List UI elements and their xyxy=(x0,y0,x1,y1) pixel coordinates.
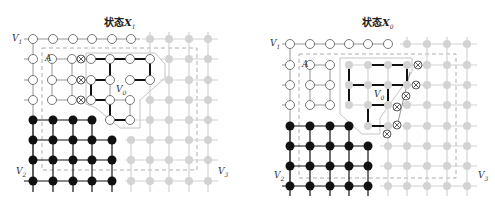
right-panel-grid xyxy=(282,37,477,196)
label-a: A xyxy=(45,53,52,63)
label-text: A xyxy=(302,59,309,69)
label-sub: 3 xyxy=(225,171,229,178)
label-sub: 1 xyxy=(19,38,23,45)
label-sub: 3 xyxy=(485,175,489,182)
title-sub: 1 xyxy=(132,23,136,30)
label-v1: V1 xyxy=(12,33,22,45)
title-var: X xyxy=(124,17,132,28)
left-panel-grid xyxy=(24,32,218,192)
label-a: A xyxy=(302,59,309,69)
label-v0: V0 xyxy=(116,84,126,96)
title-prefix: 状态 xyxy=(362,17,382,28)
right-panel-title: 状态X0 xyxy=(362,14,394,30)
region-a-dashed-box xyxy=(299,54,456,178)
label-sub: 2 xyxy=(23,171,27,178)
title-sub: 0 xyxy=(390,23,394,30)
label-sub: 2 xyxy=(281,175,285,182)
title-var: X xyxy=(382,17,390,28)
label-text: A xyxy=(45,53,52,63)
label-v2: V2 xyxy=(16,166,26,178)
label-sub: 0 xyxy=(123,89,127,96)
label-sub: 1 xyxy=(277,43,281,50)
left-panel-title: 状态X1 xyxy=(104,14,136,30)
label-v2: V2 xyxy=(274,170,284,182)
label-v0: V0 xyxy=(374,89,384,101)
label-v1: V1 xyxy=(270,38,280,50)
label-sub: 0 xyxy=(381,94,385,101)
diagram-canvas xyxy=(0,0,495,206)
region-a-dashed-box xyxy=(42,48,197,170)
title-prefix: 状态 xyxy=(104,17,124,28)
label-v3: V3 xyxy=(478,170,488,182)
label-v3: V3 xyxy=(218,166,228,178)
